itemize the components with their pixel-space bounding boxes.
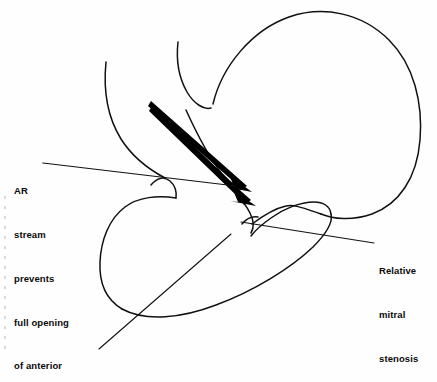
label-ar-stream-line-2: prevents: [14, 272, 69, 287]
leaflet-tip-scallop: [151, 178, 176, 198]
ar-jet-arrow-group: [148, 101, 256, 206]
ventricle-outline-right: [251, 202, 331, 236]
commissure-stub: [177, 42, 211, 108]
label-relative-mitral-stenosis: Relative mitral stenosis: [379, 235, 418, 381]
septal-wall-curve: [105, 62, 165, 178]
label-relative-mitral-stenosis-line-1: mitral: [379, 308, 418, 323]
label-relative-mitral-stenosis-line-0: Relative: [379, 264, 418, 279]
label-relative-mitral-stenosis-line-2: stenosis: [379, 352, 418, 367]
label-ar-stream-line-1: stream: [14, 228, 69, 243]
label-ar-stream-line-0: AR: [14, 184, 69, 199]
label-ar-stream: AR stream prevents full opening of anter…: [14, 155, 69, 382]
label-ar-stream-line-4: of anterior: [14, 359, 69, 374]
relative-mitral-stenosis-leader-line: [241, 222, 374, 243]
ar-jet-arrow-lower: [149, 106, 251, 205]
label-jet-lesion: Jet lesion often seen here: [82, 352, 205, 382]
label-ar-stream-line-3: full opening: [14, 316, 69, 331]
jet-lesion-leader-line: [99, 234, 231, 349]
